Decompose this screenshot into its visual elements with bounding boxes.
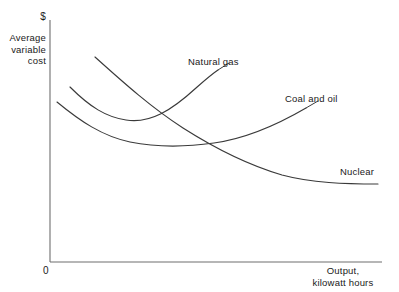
y-axis-title: Average variable cost	[0, 32, 46, 67]
series-label-nuclear: Nuclear	[340, 166, 374, 178]
origin-label: 0	[43, 265, 49, 277]
curve-coal-and-oil	[57, 102, 306, 146]
series-label-coal-and-oil: Coal and oil	[285, 93, 338, 105]
chart-canvas	[0, 0, 399, 292]
series-label-natural-gas: Natural gas	[188, 56, 239, 68]
y-axis-unit-label: $	[30, 11, 46, 23]
curve-natural-gas	[70, 70, 218, 121]
x-axis-title: Output, kilowatt hours	[290, 265, 396, 288]
figure-container: $ Average variable cost 0 Output, kilowa…	[0, 0, 399, 292]
